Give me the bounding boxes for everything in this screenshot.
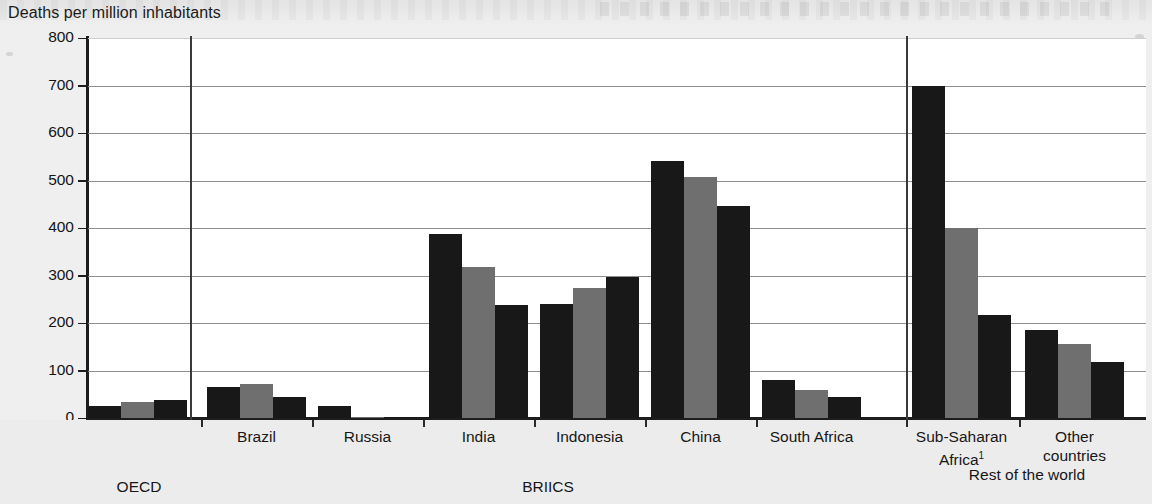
bar — [1025, 330, 1058, 418]
bar — [462, 267, 495, 418]
bar — [273, 397, 306, 418]
y-tick-mark — [78, 418, 87, 420]
supergroup-label: BRIICS — [192, 478, 904, 496]
y-tick-label: 600 — [8, 123, 74, 141]
bar — [945, 228, 978, 418]
category-label: South Africa — [732, 427, 892, 446]
x-tick-mark — [645, 420, 647, 427]
y-tick-mark — [78, 370, 87, 372]
y-tick-mark — [78, 228, 87, 230]
supergroup-label: OECD — [88, 478, 190, 496]
bar — [978, 315, 1011, 418]
bar — [88, 406, 121, 418]
scan-speck — [6, 52, 13, 56]
bar — [240, 384, 273, 418]
bar — [795, 390, 828, 419]
y-tick-label: 400 — [8, 218, 74, 236]
bar — [651, 161, 684, 418]
bar — [351, 417, 384, 419]
y-tick-mark — [78, 133, 87, 135]
bar — [828, 397, 861, 418]
bar — [154, 400, 187, 418]
bar — [318, 406, 351, 418]
y-tick-label: 100 — [8, 361, 74, 379]
x-tick-mark — [201, 420, 203, 427]
x-tick-mark — [312, 420, 314, 427]
bar — [429, 234, 462, 418]
y-tick-label: 700 — [8, 76, 74, 94]
y-tick-mark — [78, 323, 87, 325]
x-tick-mark — [906, 420, 908, 427]
y-tick-mark — [78, 38, 87, 40]
gridline — [88, 228, 1146, 229]
bar — [384, 417, 417, 419]
gridline — [88, 181, 1146, 182]
y-tick-label: 300 — [8, 266, 74, 284]
bar — [121, 402, 154, 418]
bar — [606, 277, 639, 418]
y-axis-title: Deaths per million inhabitants — [8, 4, 221, 22]
x-tick-mark — [756, 420, 758, 427]
y-tick-mark — [78, 85, 87, 87]
bar — [207, 387, 240, 418]
y-tick-mark — [78, 180, 87, 182]
bar — [540, 304, 573, 418]
scan-bleedthrough-text — [600, 2, 1120, 16]
category-label: Othercountries — [995, 427, 1152, 465]
y-tick-mark — [78, 275, 87, 277]
supergroup-label: Rest of the world — [908, 466, 1146, 484]
gridline — [88, 86, 1146, 87]
bar — [1091, 362, 1124, 418]
x-tick-mark — [1019, 420, 1021, 427]
y-tick-label: 200 — [8, 313, 74, 331]
bar — [573, 288, 606, 418]
chart-page: Deaths per million inhabitants 800700600… — [0, 0, 1152, 504]
bar — [717, 206, 750, 418]
bar — [1058, 344, 1091, 418]
bar — [495, 305, 528, 418]
x-tick-mark — [423, 420, 425, 427]
gridline — [88, 133, 1146, 134]
bar — [912, 86, 945, 419]
bar — [762, 380, 795, 418]
x-tick-mark — [534, 420, 536, 427]
plot-top-edge — [88, 38, 1146, 39]
bar — [684, 177, 717, 418]
y-tick-label: 800 — [8, 28, 74, 46]
y-tick-label: 500 — [8, 171, 74, 189]
